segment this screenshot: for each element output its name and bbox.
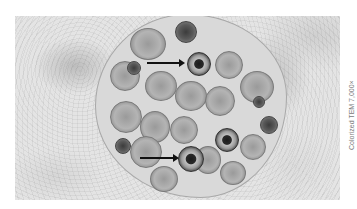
- dense-ringed-body: [215, 128, 239, 152]
- figure-caption: Colorized TEM 7,000×: [348, 80, 355, 150]
- tem-micrograph: [15, 16, 340, 200]
- reticulate-body: [110, 101, 142, 133]
- dense-body: [127, 61, 141, 75]
- reticulate-body: [205, 86, 235, 116]
- reticulate-body: [215, 51, 243, 79]
- arrow-upper: [147, 62, 183, 64]
- reticulate-body: [130, 28, 166, 60]
- dense-body: [175, 21, 197, 43]
- reticulate-body: [240, 134, 266, 160]
- arrow-lower: [140, 157, 177, 159]
- reticulate-body: [145, 71, 177, 101]
- dense-ringed-body-lower: [178, 146, 204, 172]
- dense-body: [115, 138, 131, 154]
- dense-body: [253, 96, 265, 108]
- reticulate-body: [150, 166, 178, 192]
- reticulate-body: [175, 81, 207, 111]
- dense-body: [260, 116, 278, 134]
- dense-ringed-body-upper: [187, 52, 211, 76]
- reticulate-body: [170, 116, 198, 144]
- reticulate-body: [220, 161, 246, 185]
- reticulate-body: [130, 136, 162, 168]
